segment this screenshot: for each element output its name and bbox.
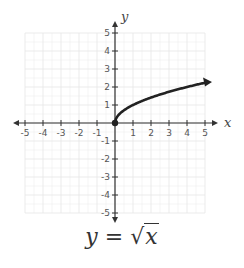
curve-end-arrow-icon xyxy=(203,77,212,86)
y-axis-down-arrow-icon xyxy=(112,217,118,223)
x-tick-label: -4 xyxy=(39,128,48,138)
y-axis-up-arrow-icon xyxy=(112,21,118,27)
x-axis-label: x xyxy=(224,115,232,130)
y-tick-label: 1 xyxy=(104,100,110,110)
equation-radicand: x xyxy=(144,223,158,249)
x-tick-label: 2 xyxy=(148,128,154,138)
y-tick-label: 5 xyxy=(104,28,110,38)
radical-sign-icon: √ xyxy=(130,224,144,249)
curve xyxy=(112,77,212,126)
x-axis-left-arrow-icon xyxy=(13,120,19,126)
x-tick-label: -5 xyxy=(21,128,30,138)
x-tick-label: 4 xyxy=(184,128,190,138)
y-tick-label: -2 xyxy=(101,154,110,164)
y-tick-label: -4 xyxy=(101,190,110,200)
y-axis-label: y xyxy=(120,9,129,24)
y-tick-label: -3 xyxy=(101,172,110,182)
x-tick-label: 1 xyxy=(130,128,136,138)
equation-equals: = xyxy=(98,224,130,249)
x-tick-label: 5 xyxy=(202,128,208,138)
y-tick-label: -1 xyxy=(101,136,110,146)
y-tick-label: 3 xyxy=(104,64,110,74)
x-tick-label: 3 xyxy=(166,128,172,138)
x-axis-right-arrow-icon xyxy=(212,120,218,126)
y-tick-label: 2 xyxy=(104,82,110,92)
equation-lhs: y xyxy=(85,224,97,249)
equation-caption: y = √x xyxy=(0,224,244,249)
y-tick-label: -5 xyxy=(101,208,110,218)
x-tick-label: -2 xyxy=(75,128,84,138)
x-tick-label: -3 xyxy=(57,128,66,138)
curve-start-point xyxy=(112,120,118,126)
y-tick-label: 4 xyxy=(104,46,110,56)
